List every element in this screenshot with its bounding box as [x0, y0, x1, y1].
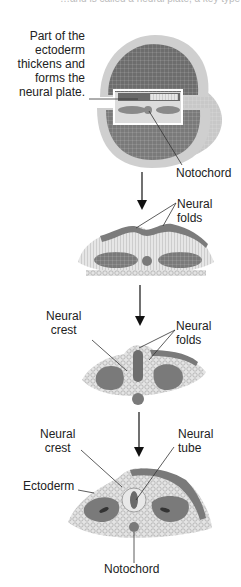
label-neural-folds-1: Neural folds	[177, 197, 212, 225]
cross-section-stage-3	[82, 345, 206, 405]
label-ectoderm: Ectoderm	[23, 480, 74, 494]
arrow-1-head	[137, 200, 147, 210]
neural-folds-leader-b	[163, 203, 176, 226]
neural-crest-leader-2	[81, 450, 122, 487]
arrow-3-head	[134, 447, 144, 457]
label-neural-crest-2: Neural crest	[40, 427, 75, 455]
cross-section-stage-2	[78, 224, 214, 276]
neural-folds-leader-c	[139, 330, 175, 348]
label-notochord-bottom: Notochord	[104, 563, 159, 577]
embryo-stage-1	[97, 35, 222, 168]
label-neural-crest-1: Neural crest	[46, 309, 81, 337]
label-neural-plate-description: Part of the ectoderm thickens and forms …	[18, 29, 85, 99]
label-neural-tube: Neural tube	[178, 427, 213, 455]
cross-section-stage-4	[68, 468, 212, 538]
label-notochord-top: Notochord	[176, 167, 231, 181]
arrow-2-head	[135, 316, 145, 326]
ectoderm-leader	[78, 490, 94, 493]
label-neural-folds-2: Neural folds	[176, 319, 211, 347]
